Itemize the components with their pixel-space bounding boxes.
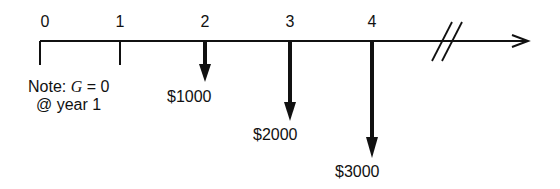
note-line-2: @ year 1 [36, 96, 101, 114]
period-label-1: 1 [116, 13, 125, 31]
note-line-1: Note: G = 0 [28, 78, 109, 96]
period-label-2: 2 [201, 13, 210, 31]
period-label-0: 0 [41, 13, 50, 31]
cash-flow-label-4: $3000 [335, 163, 380, 181]
cash-flow-label-3: $2000 [253, 126, 298, 144]
period-label-4: 4 [368, 13, 377, 31]
period-label-3: 3 [286, 13, 295, 31]
cash-flow-label-2: $1000 [167, 88, 212, 106]
